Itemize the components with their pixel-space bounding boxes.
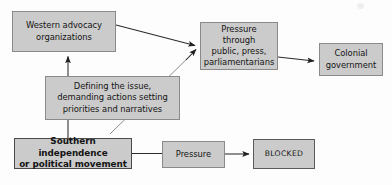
node-defining-issue-label: Defining the issue, demanding actions se… [57, 81, 168, 114]
node-colonial-government-label: Colonial government [326, 48, 377, 70]
edge-western-to-pressure-through [116, 25, 195, 46]
node-blocked[interactable]: BLOCKED [253, 139, 315, 169]
scan-artifact [357, 3, 364, 9]
node-pressure-label: Pressure [176, 149, 211, 160]
node-pressure-through-label: Pressure through public, press, parliame… [204, 24, 275, 68]
node-southern-independence[interactable]: Southern independence or political movem… [14, 138, 132, 169]
diagram-canvas: Western advocacy organizations Defining … [0, 0, 392, 185]
node-blocked-label: BLOCKED [265, 149, 304, 159]
node-defining-issue[interactable]: Defining the issue, demanding actions se… [45, 76, 180, 120]
node-western-advocacy-label: Western advocacy organizations [26, 20, 102, 42]
node-colonial-government[interactable]: Colonial government [319, 43, 383, 76]
node-pressure-through[interactable]: Pressure through public, press, parliame… [200, 22, 278, 70]
node-southern-independence-label: Southern independence or political movem… [18, 136, 128, 171]
node-western-advocacy[interactable]: Western advocacy organizations [12, 11, 116, 52]
node-pressure[interactable]: Pressure [162, 141, 225, 168]
edge-pressure-through-to-colonial [278, 57, 314, 61]
